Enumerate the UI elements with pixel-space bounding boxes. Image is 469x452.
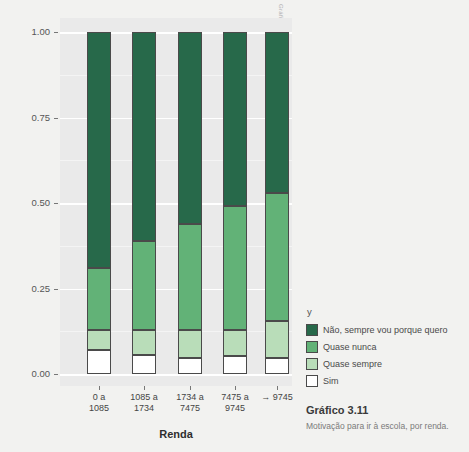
legend-swatch <box>306 375 318 387</box>
y-axis-tick-label: 0.00 <box>22 368 50 379</box>
legend-swatch <box>306 324 318 336</box>
legend-item[interactable]: Quase nunca <box>306 338 448 355</box>
bar-segment[interactable] <box>87 268 111 330</box>
bar-segment[interactable] <box>178 330 202 358</box>
bar-segment[interactable] <box>132 355 156 374</box>
y-axis-tick-mark <box>54 118 58 119</box>
legend-item-label: Sim <box>323 376 339 386</box>
bar-segment[interactable] <box>265 358 289 374</box>
legend-item-label: Não, sempre vou porque quero <box>323 325 448 335</box>
bar-stack[interactable] <box>178 32 202 374</box>
bar-segment[interactable] <box>87 32 111 268</box>
bar-segment[interactable] <box>223 32 247 206</box>
bar-segment[interactable] <box>223 206 247 329</box>
x-axis-title: Renda <box>60 428 292 440</box>
x-axis-tick-mark <box>235 386 236 390</box>
caption: Gráfico 3.11 Motivação para ir à escola,… <box>306 404 466 432</box>
legend-items: Não, sempre vou porque queroQuase nuncaQ… <box>306 321 448 389</box>
y-axis-tick-mark <box>54 203 58 204</box>
bar-stack[interactable] <box>87 32 111 374</box>
bar-segment[interactable] <box>87 330 111 351</box>
bar-segment[interactable] <box>132 241 156 331</box>
y-axis-tick-label: 0.75 <box>22 112 50 123</box>
caption-subtitle: Motivação para ir à escola, por renda. <box>306 420 466 432</box>
x-axis-tick-mark <box>144 386 145 390</box>
legend-title: y <box>307 306 448 317</box>
x-axis-tick-mark <box>277 386 278 390</box>
legend: y Não, sempre vou porque queroQuase nunc… <box>306 306 448 389</box>
legend-swatch <box>306 341 318 353</box>
y-axis-tick-mark <box>54 289 58 290</box>
legend-swatch <box>306 358 318 370</box>
y-axis-tick-label: 0.25 <box>22 283 50 294</box>
bar-segment[interactable] <box>265 193 289 321</box>
y-axis-tick-mark <box>54 374 58 375</box>
y-axis-tick-label: 0.50 <box>22 197 50 208</box>
x-axis-tick-mark <box>99 386 100 390</box>
bar-segment[interactable] <box>178 224 202 330</box>
bar-stack[interactable] <box>265 32 289 374</box>
bar-segment[interactable] <box>223 356 247 374</box>
y-axis-tick-mark <box>54 32 58 33</box>
caption-title: Gráfico 3.11 <box>306 404 466 416</box>
legend-item[interactable]: Não, sempre vou porque quero <box>306 321 448 338</box>
bar-segment[interactable] <box>265 321 289 358</box>
legend-item-label: Quase sempre <box>323 359 382 369</box>
gridline-major <box>60 374 292 376</box>
x-axis-tick-label: → 9745 <box>247 392 307 403</box>
bar-segment[interactable] <box>132 32 156 241</box>
y-axis-tick-label: 1.00 <box>22 26 50 37</box>
x-axis-tick-mark <box>190 386 191 390</box>
bar-segment[interactable] <box>178 358 202 374</box>
legend-item[interactable]: Quase sempre <box>306 355 448 372</box>
bar-segment[interactable] <box>132 330 156 355</box>
y-axis-title-wrap: População <box>0 0 30 380</box>
bar-stack[interactable] <box>223 32 247 374</box>
bar-segment[interactable] <box>178 32 202 224</box>
bar-segment[interactable] <box>87 350 111 374</box>
legend-item[interactable]: Sim <box>306 372 448 389</box>
bar-segment[interactable] <box>265 32 289 193</box>
legend-item-label: Quase nunca <box>323 342 377 352</box>
bar-stack[interactable] <box>132 32 156 374</box>
bar-segment[interactable] <box>223 330 247 356</box>
